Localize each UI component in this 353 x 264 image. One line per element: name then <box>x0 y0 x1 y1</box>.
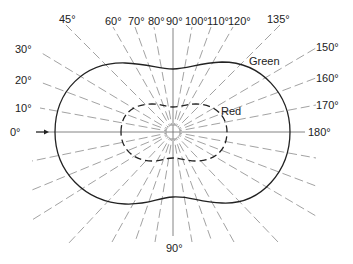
label-170: 170° <box>316 99 339 111</box>
label-60: 60° <box>105 15 122 27</box>
label-30: 30° <box>15 43 32 55</box>
polar-diagram: 0° 10° 20° 30° 45° 60° 70° 80° 90° 100° … <box>0 0 353 264</box>
upper-rays <box>40 25 316 132</box>
ray-lower-30 <box>32 132 173 220</box>
label-10: 10° <box>15 102 32 114</box>
ray-100 <box>173 27 192 132</box>
label-80: 80° <box>148 15 165 27</box>
ray-150 <box>173 48 316 132</box>
ray-lower-110 <box>173 132 212 242</box>
arrow-right-icon <box>44 130 49 135</box>
ray-110 <box>173 27 211 132</box>
label-45: 45° <box>59 13 76 25</box>
label-150: 150° <box>316 41 339 53</box>
label-20: 20° <box>15 74 32 86</box>
label-90-top: 90° <box>166 15 183 27</box>
green-curve-label: Green <box>249 55 280 67</box>
label-100: 100° <box>185 15 208 27</box>
ray-20 <box>40 82 173 132</box>
label-70: 70° <box>128 15 145 27</box>
label-120: 120° <box>228 15 251 27</box>
label-0: 0° <box>10 126 21 138</box>
label-110: 110° <box>207 15 229 27</box>
ray-70 <box>135 27 173 132</box>
label-135: 135° <box>267 13 290 25</box>
label-90-bottom: 90° <box>166 242 183 254</box>
ray-lower-160 <box>173 132 316 186</box>
label-160: 160° <box>316 72 339 84</box>
ray-lower-10 <box>32 132 173 161</box>
ray-160 <box>173 78 316 132</box>
ray-60 <box>113 27 173 132</box>
ray-lower-70 <box>135 132 173 242</box>
lower-rays <box>32 132 316 244</box>
ray-80 <box>154 27 173 132</box>
ray-170 <box>173 105 316 132</box>
label-180: 180° <box>308 126 331 138</box>
red-curve-label: Red <box>221 105 241 117</box>
